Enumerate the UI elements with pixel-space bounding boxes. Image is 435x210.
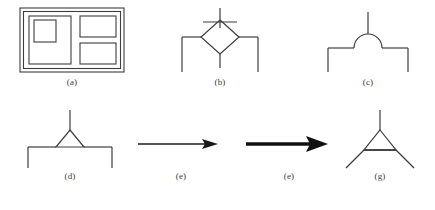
panel-c: (c) <box>320 6 416 96</box>
panel-a-label: (a) <box>18 78 126 87</box>
semicircle-arc <box>354 34 382 48</box>
diamond-junction-glyph <box>175 6 265 74</box>
triangle-node <box>56 130 84 147</box>
panel-b: (b) <box>175 6 265 96</box>
right-splayed-leg-line <box>396 150 414 168</box>
right-bottom-panel-rect <box>80 43 116 64</box>
panel-e-bold-label: (e) <box>244 172 334 181</box>
panel-d: (d) <box>22 108 118 192</box>
nested-rectangles-layout-glyph <box>18 6 126 74</box>
right-top-panel-rect <box>80 16 116 37</box>
semicircle-junction-glyph <box>320 6 416 74</box>
triangle-junction-glyph <box>22 108 118 170</box>
left-large-panel-rect <box>29 16 71 64</box>
panel-g-label: (g) <box>340 172 420 181</box>
outer-frame-outer-rect <box>20 8 124 72</box>
figure-canvas: (a) (b) <box>0 0 435 210</box>
triangle-node <box>364 130 396 150</box>
panel-a: (a) <box>18 6 126 96</box>
panel-d-label: (d) <box>22 172 118 181</box>
panel-e-thin-label: (e) <box>136 172 226 181</box>
panel-c-label: (c) <box>320 78 416 87</box>
panel-e-thin-arrow: (e) <box>136 108 226 192</box>
panel-g: (g) <box>340 108 420 192</box>
panel-e-bold-arrow: (e) <box>244 108 334 192</box>
left-inset-square-rect <box>34 20 56 42</box>
thin-right-arrow <box>136 108 226 170</box>
left-splayed-leg-line <box>346 150 364 168</box>
bold-right-arrow <box>244 108 334 170</box>
triangle-with-splayed-legs-glyph <box>340 108 420 170</box>
panel-b-label: (b) <box>175 78 265 87</box>
